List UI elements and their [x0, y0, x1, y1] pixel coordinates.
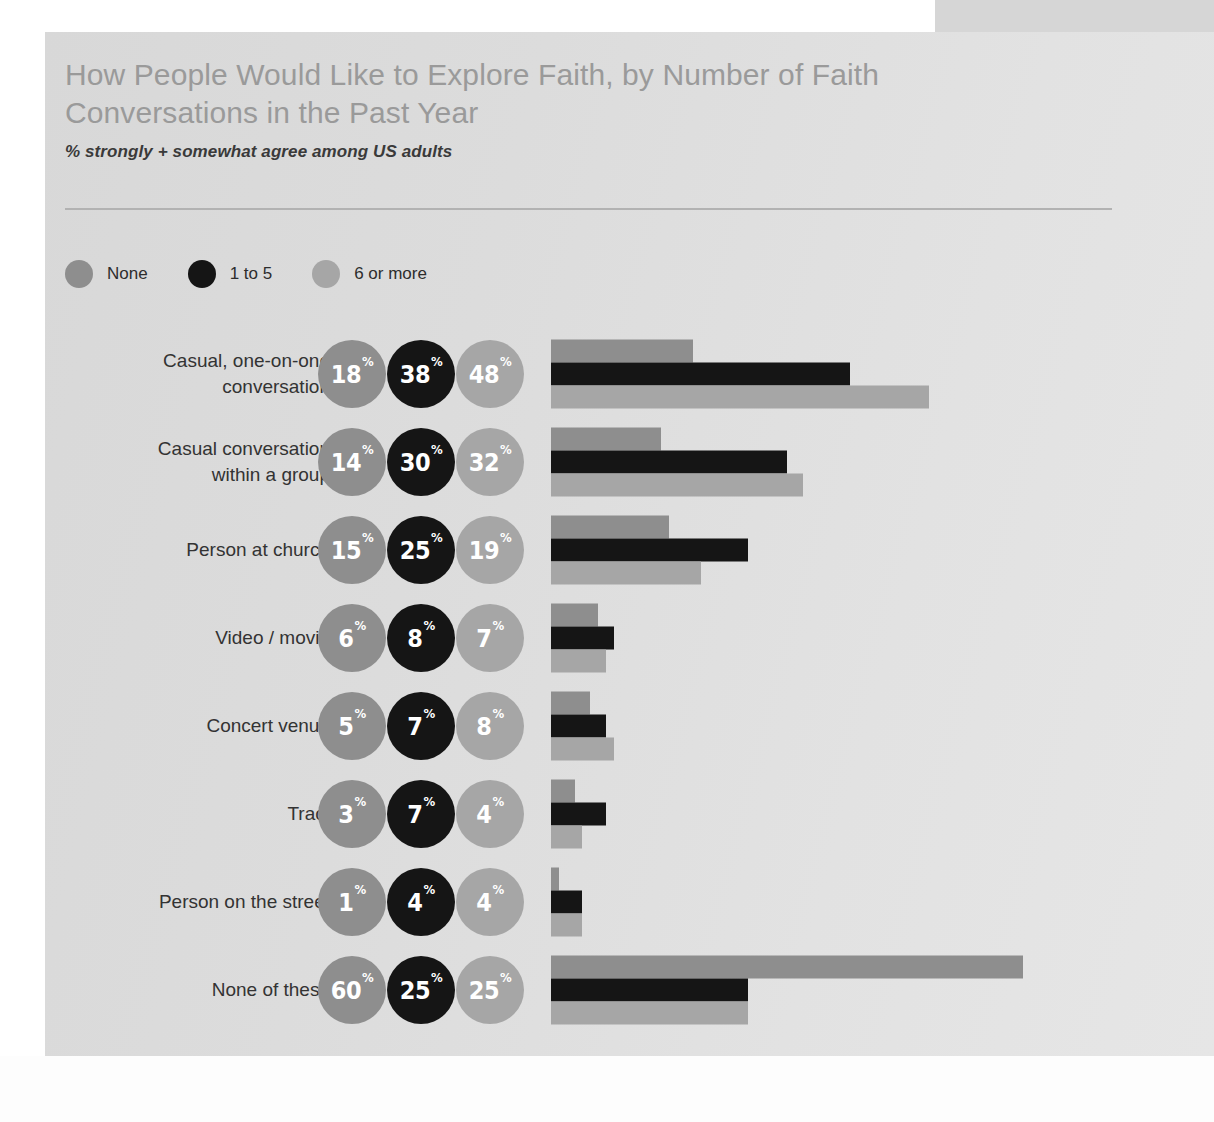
value-number: 8: [407, 624, 422, 653]
row-value-bubbles: 3%7%4%: [318, 780, 524, 848]
row-bars: [551, 516, 1111, 585]
row-category-label: Person on the street: [50, 889, 330, 915]
legend-label: 1 to 5: [230, 264, 273, 284]
percent-sign: %: [423, 794, 434, 809]
value-bubble[interactable]: 25%: [387, 516, 455, 584]
header-divider: [65, 208, 1112, 210]
bar[interactable]: [551, 715, 606, 738]
bar[interactable]: [551, 914, 582, 937]
chart-row: None of these60%25%25%: [0, 946, 1169, 1034]
percent-sign: %: [492, 794, 503, 809]
value-bubble[interactable]: 48%: [456, 340, 524, 408]
value-bubble[interactable]: 4%: [387, 868, 455, 936]
percent-sign: %: [500, 442, 511, 457]
bar[interactable]: [551, 451, 787, 474]
value-bubble[interactable]: 25%: [456, 956, 524, 1024]
value-bubble[interactable]: 4%: [456, 780, 524, 848]
bar[interactable]: [551, 474, 803, 497]
chart-row: Casual conversationwithin a group14%30%3…: [0, 418, 1169, 506]
row-bars: [551, 428, 1111, 497]
value-bubble[interactable]: 7%: [456, 604, 524, 672]
bar[interactable]: [551, 340, 693, 363]
bar[interactable]: [551, 803, 606, 826]
value-bubble[interactable]: 32%: [456, 428, 524, 496]
bar[interactable]: [551, 363, 850, 386]
bar[interactable]: [551, 428, 661, 451]
row-category-label: Person at church: [50, 537, 330, 563]
value-bubble[interactable]: 60%: [318, 956, 386, 1024]
value-number: 4: [476, 800, 491, 829]
page-bottom-margin: [0, 1056, 1214, 1122]
chart-legend: None1 to 56 or more: [65, 260, 427, 288]
bar[interactable]: [551, 562, 701, 585]
value-bubble[interactable]: 5%: [318, 692, 386, 760]
value-bubble[interactable]: 7%: [387, 780, 455, 848]
value-bubble[interactable]: 3%: [318, 780, 386, 848]
bar[interactable]: [551, 979, 748, 1002]
legend-item-none[interactable]: None: [65, 260, 148, 288]
bar[interactable]: [551, 956, 1023, 979]
bar[interactable]: [551, 516, 669, 539]
row-bars: [551, 692, 1111, 761]
value-bubble[interactable]: 8%: [387, 604, 455, 672]
chart-subtitle: % strongly + somewhat agree among US adu…: [65, 142, 452, 162]
value-bubble[interactable]: 18%: [318, 340, 386, 408]
bar[interactable]: [551, 627, 614, 650]
row-category-label: Casual, one-on-oneconversation: [50, 348, 330, 399]
bar[interactable]: [551, 650, 606, 673]
bar[interactable]: [551, 604, 598, 627]
bar[interactable]: [551, 868, 559, 891]
value-bubble[interactable]: 25%: [387, 956, 455, 1024]
bar[interactable]: [551, 539, 748, 562]
bar[interactable]: [551, 826, 582, 849]
page-title: How People Would Like to Explore Faith, …: [65, 56, 925, 133]
value-number: 8: [476, 712, 491, 741]
percent-sign: %: [500, 530, 511, 545]
value-number: 1: [338, 888, 353, 917]
row-bars: [551, 604, 1111, 673]
legend-item-1-to-5[interactable]: 1 to 5: [188, 260, 273, 288]
value-bubble[interactable]: 19%: [456, 516, 524, 584]
bar[interactable]: [551, 1002, 748, 1025]
value-number: 25: [400, 976, 430, 1005]
value-number: 4: [407, 888, 422, 917]
percent-sign: %: [354, 618, 365, 633]
value-bubble[interactable]: 8%: [456, 692, 524, 760]
row-bars: [551, 780, 1111, 849]
percent-sign: %: [362, 530, 373, 545]
value-bubble[interactable]: 7%: [387, 692, 455, 760]
percent-sign: %: [431, 442, 442, 457]
row-value-bubbles: 14%30%32%: [318, 428, 524, 496]
value-bubble[interactable]: 30%: [387, 428, 455, 496]
bar[interactable]: [551, 891, 582, 914]
value-number: 48: [469, 360, 499, 389]
legend-label: 6 or more: [354, 264, 427, 284]
legend-item-6-or-more[interactable]: 6 or more: [312, 260, 427, 288]
percent-sign: %: [500, 354, 511, 369]
percent-sign: %: [431, 530, 442, 545]
bar[interactable]: [551, 386, 929, 409]
legend-swatch-icon: [188, 260, 216, 288]
row-value-bubbles: 1%4%4%: [318, 868, 524, 936]
value-bubble[interactable]: 38%: [387, 340, 455, 408]
legend-swatch-icon: [65, 260, 93, 288]
bar[interactable]: [551, 738, 614, 761]
value-number: 6: [338, 624, 353, 653]
bar[interactable]: [551, 692, 590, 715]
row-bars: [551, 340, 1111, 409]
chart-row: Casual, one-on-oneconversation18%38%48%: [0, 330, 1169, 418]
value-number: 15: [331, 536, 361, 565]
row-value-bubbles: 15%25%19%: [318, 516, 524, 584]
value-bubble[interactable]: 14%: [318, 428, 386, 496]
value-number: 7: [476, 624, 491, 653]
chart-row: Tract3%7%4%: [0, 770, 1169, 858]
row-category-label: Concert venue: [50, 713, 330, 739]
legend-label: None: [107, 264, 148, 284]
chart-row: Person at church15%25%19%: [0, 506, 1169, 594]
value-bubble[interactable]: 1%: [318, 868, 386, 936]
value-bubble[interactable]: 15%: [318, 516, 386, 584]
percent-sign: %: [431, 970, 442, 985]
value-bubble[interactable]: 4%: [456, 868, 524, 936]
value-bubble[interactable]: 6%: [318, 604, 386, 672]
bar[interactable]: [551, 780, 575, 803]
